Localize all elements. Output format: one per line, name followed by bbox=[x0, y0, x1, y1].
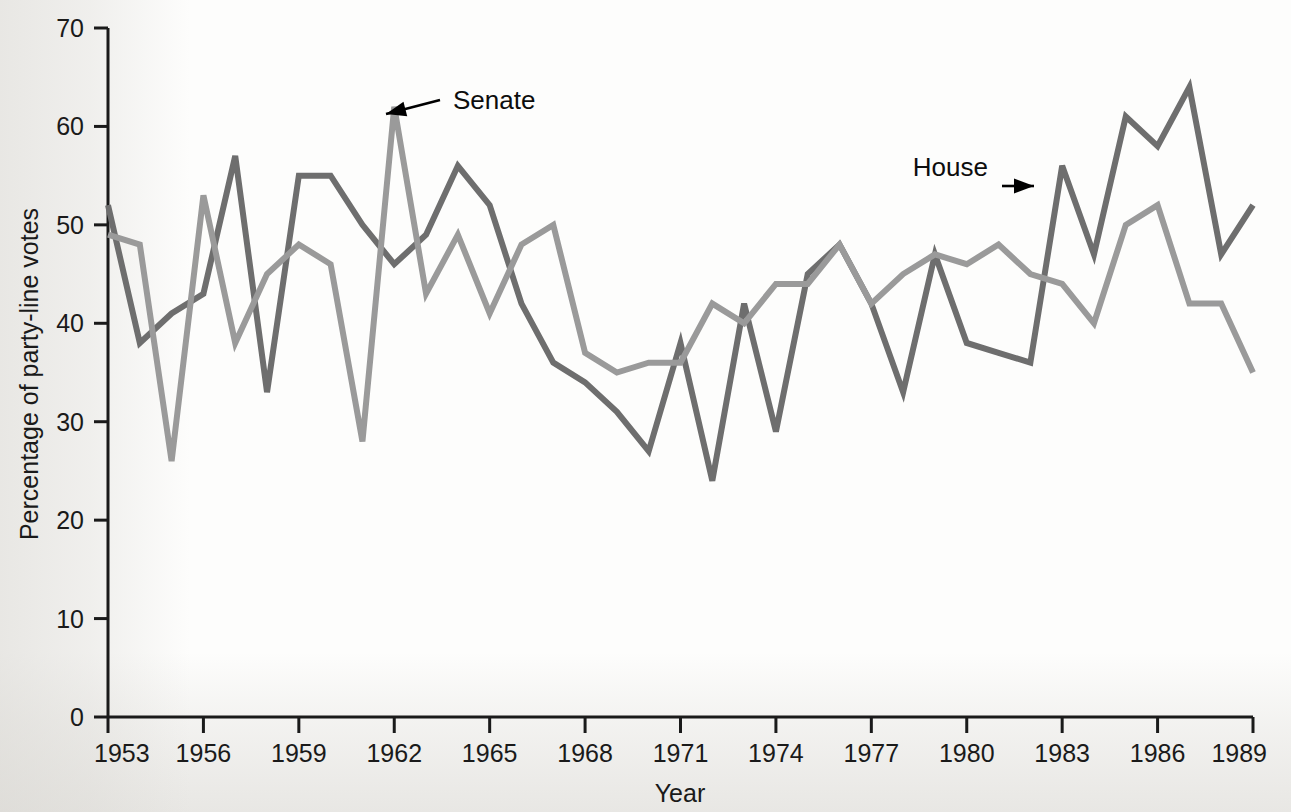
y-tick-label: 10 bbox=[56, 605, 84, 633]
x-axis-tick-labels: 1953195619591962196519681971197419771980… bbox=[94, 739, 1267, 767]
x-tick-label: 1965 bbox=[462, 739, 518, 767]
axes-group bbox=[108, 28, 1253, 717]
annotations-group: SenateHouse bbox=[386, 85, 1034, 194]
x-tick-label: 1989 bbox=[1211, 739, 1267, 767]
x-tick-label: 1953 bbox=[94, 739, 150, 767]
annotation-arrowhead-senate bbox=[386, 102, 407, 117]
x-tick-label: 1977 bbox=[844, 739, 900, 767]
y-tick-label: 70 bbox=[56, 14, 84, 42]
y-tick-label: 60 bbox=[56, 112, 84, 140]
series-line-senate bbox=[108, 107, 1253, 461]
y-tick-label: 50 bbox=[56, 211, 84, 239]
x-tick-label: 1956 bbox=[176, 739, 232, 767]
y-axis-tick-labels: 010203040506070 bbox=[56, 14, 84, 731]
x-axis-title: Year bbox=[655, 779, 706, 807]
x-tick-label: 1971 bbox=[653, 739, 709, 767]
y-tick-label: 0 bbox=[70, 703, 84, 731]
x-tick-label: 1968 bbox=[557, 739, 613, 767]
data-series-group bbox=[108, 87, 1253, 481]
line-chart: 010203040506070 195319561959196219651968… bbox=[0, 0, 1291, 812]
y-axis-title: Percentage of party-line votes bbox=[15, 208, 43, 540]
x-tick-label: 1962 bbox=[366, 739, 422, 767]
y-tick-label: 20 bbox=[56, 506, 84, 534]
annotation-arrowhead-house bbox=[1014, 179, 1034, 194]
x-tick-label: 1986 bbox=[1130, 739, 1186, 767]
x-tick-label: 1980 bbox=[939, 739, 995, 767]
annotation-label-senate: Senate bbox=[453, 85, 535, 115]
y-tick-label: 30 bbox=[56, 408, 84, 436]
x-tick-label: 1983 bbox=[1034, 739, 1090, 767]
annotation-label-house: House bbox=[913, 152, 988, 182]
series-line-house bbox=[108, 87, 1253, 481]
figure-container: 010203040506070 195319561959196219651968… bbox=[0, 0, 1291, 812]
y-tick-label: 40 bbox=[56, 309, 84, 337]
x-tick-label: 1974 bbox=[748, 739, 804, 767]
x-tick-label: 1959 bbox=[271, 739, 327, 767]
